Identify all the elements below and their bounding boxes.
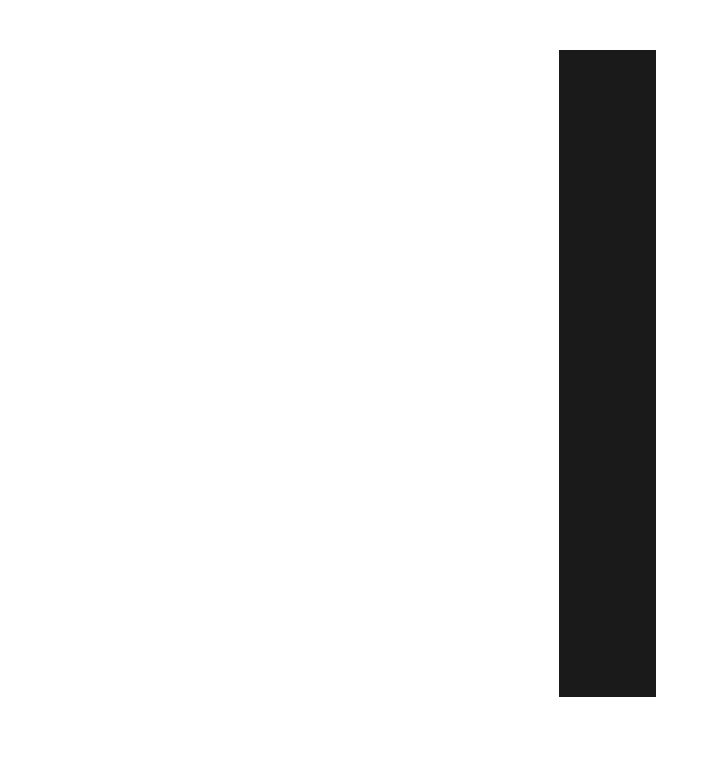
blank-page xyxy=(0,0,701,760)
dark-panel xyxy=(559,50,656,697)
